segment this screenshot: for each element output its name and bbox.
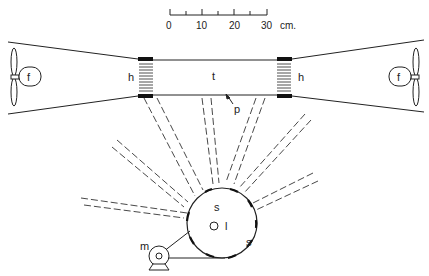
right-fan — [389, 48, 419, 106]
scale-tick-10: 10 — [196, 20, 208, 31]
left-fan — [11, 48, 41, 106]
honeycomb-left-label: h — [128, 71, 134, 83]
plate-label: p — [234, 103, 240, 115]
scale-tick-30: 30 — [261, 20, 273, 31]
sun-side-label: s — [246, 236, 252, 248]
sun-top-label: s — [214, 201, 220, 213]
motor-label: m — [140, 240, 149, 252]
lamp-label: l — [225, 220, 227, 232]
honeycomb-right-label: h — [298, 71, 304, 83]
scale-unit: cm. — [280, 20, 296, 31]
left-honeycomb — [138, 57, 153, 98]
scale-tick-20: 20 — [229, 20, 241, 31]
tunnel-label: t — [212, 70, 215, 82]
apparatus-diagram: 0 10 20 30 cm. t h — [0, 0, 429, 276]
scale-tick-0: 0 — [166, 20, 172, 31]
scale-bar — [170, 9, 267, 15]
right-honeycomb — [277, 57, 292, 98]
